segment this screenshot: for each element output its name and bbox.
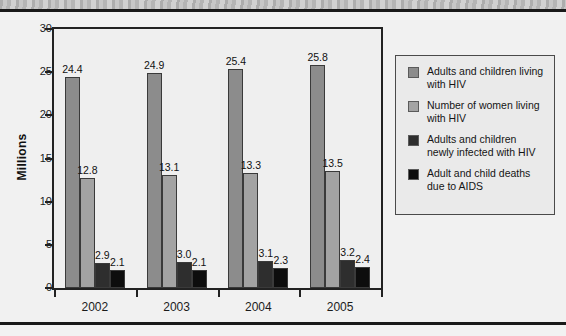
bar [355,267,370,288]
bar [192,270,207,288]
legend-item-label: Adult and child deaths due to AIDS [427,167,546,192]
legend-item: Number of women living with HIV [405,99,546,124]
bar-value-label: 2.1 [103,256,132,268]
y-axis-tick-mark [45,28,52,30]
legend-item-label: Adults and children living with HIV [427,65,546,90]
chart-legend: Adults and children living with HIVNumbe… [395,55,555,215]
scan-artifact-band [0,0,566,9]
bar-value-label: 2.3 [266,254,295,266]
x-axis-tick-label: 2002 [65,300,125,314]
bar [80,178,95,289]
legend-item: Adults and children newly infected with … [405,133,546,158]
bar [65,77,80,288]
legend-swatch-icon [408,169,419,180]
y-axis-tick-mark [45,71,52,73]
bar-value-label: 25.4 [221,55,250,67]
bar [325,171,340,288]
bar [243,173,258,288]
x-axis-tick-label: 2004 [228,300,288,314]
bar-value-label: 12.8 [73,164,102,176]
bar [110,270,125,288]
bar [273,268,288,288]
x-axis-tick-label: 2005 [310,300,370,314]
bar [228,69,243,288]
y-axis-labels: 051015202530 [8,0,52,336]
y-axis-tick-mark [45,114,52,116]
bar [310,65,325,288]
bar-value-label: 2.4 [348,253,377,265]
bar-value-label: 25.8 [303,51,332,63]
bar-group: 24.913.13.02.1 [136,29,218,288]
bar-value-label: 2.1 [185,256,214,268]
legend-swatch-icon [408,67,419,78]
bar-value-label: 24.9 [140,59,169,71]
legend-item: Adults and children living with HIV [405,65,546,90]
y-axis-tick-mark [45,244,52,246]
legend-swatch-icon [408,135,419,146]
bar-value-label: 13.1 [155,161,184,173]
legend-swatch-icon [408,101,419,112]
y-axis-tick-mark [45,287,52,289]
bottom-rule [0,322,566,325]
bar [147,73,162,288]
x-axis-tick-mark [54,290,56,297]
legend-item-label: Adults and children newly infected with … [427,133,546,158]
legend-item: Adult and child deaths due to AIDS [405,167,546,192]
x-axis-tick-mark [299,290,301,297]
x-axis-tick-mark [218,290,220,297]
bar-value-label: 13.5 [318,157,347,169]
y-axis-tick-mark [45,158,52,160]
legend-item-label: Number of women living with HIV [427,99,546,124]
x-axis-tick-mark [136,290,138,297]
bar-value-label: 24.4 [58,63,87,75]
bar-group: 25.413.33.12.3 [218,29,300,288]
y-axis-tick-mark [45,201,52,203]
x-axis-tick-label: 2003 [147,300,207,314]
bar-group: 24.412.82.92.1 [54,29,136,288]
x-axis-tick-mark [381,290,383,297]
bar-value-label: 13.3 [236,159,265,171]
bar-group: 25.813.53.22.4 [299,29,381,288]
bars-layer: 24.412.82.92.124.913.13.02.125.413.33.12… [54,29,381,288]
bar [162,175,177,288]
